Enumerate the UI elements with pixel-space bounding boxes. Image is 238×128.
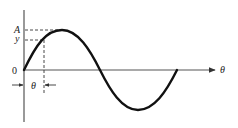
origin-label: 0 (12, 65, 17, 76)
x-axis-label: θ (220, 64, 225, 75)
value-label: y (14, 33, 20, 44)
sine-wave-diagram: A y 0 θ θ (0, 0, 238, 128)
angle-marker-label: θ (31, 80, 36, 91)
